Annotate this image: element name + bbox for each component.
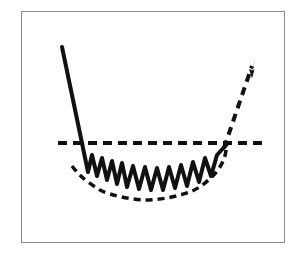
recovery-arrow <box>224 57 256 148</box>
figure-root: Market bottoming and recovery pattern <box>0 0 297 265</box>
recovery-arrow-shaft <box>224 66 252 148</box>
price-line-stroke <box>62 47 228 190</box>
chart-canvas <box>0 0 297 265</box>
price-line <box>62 47 228 190</box>
